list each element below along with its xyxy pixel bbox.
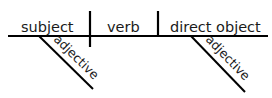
verb-label: verb: [107, 19, 140, 35]
subject-label: subject: [21, 19, 74, 35]
subject-adjective-label: adjective: [51, 31, 102, 82]
sentence-diagram: subject verb direct object adjective adj…: [0, 0, 272, 98]
